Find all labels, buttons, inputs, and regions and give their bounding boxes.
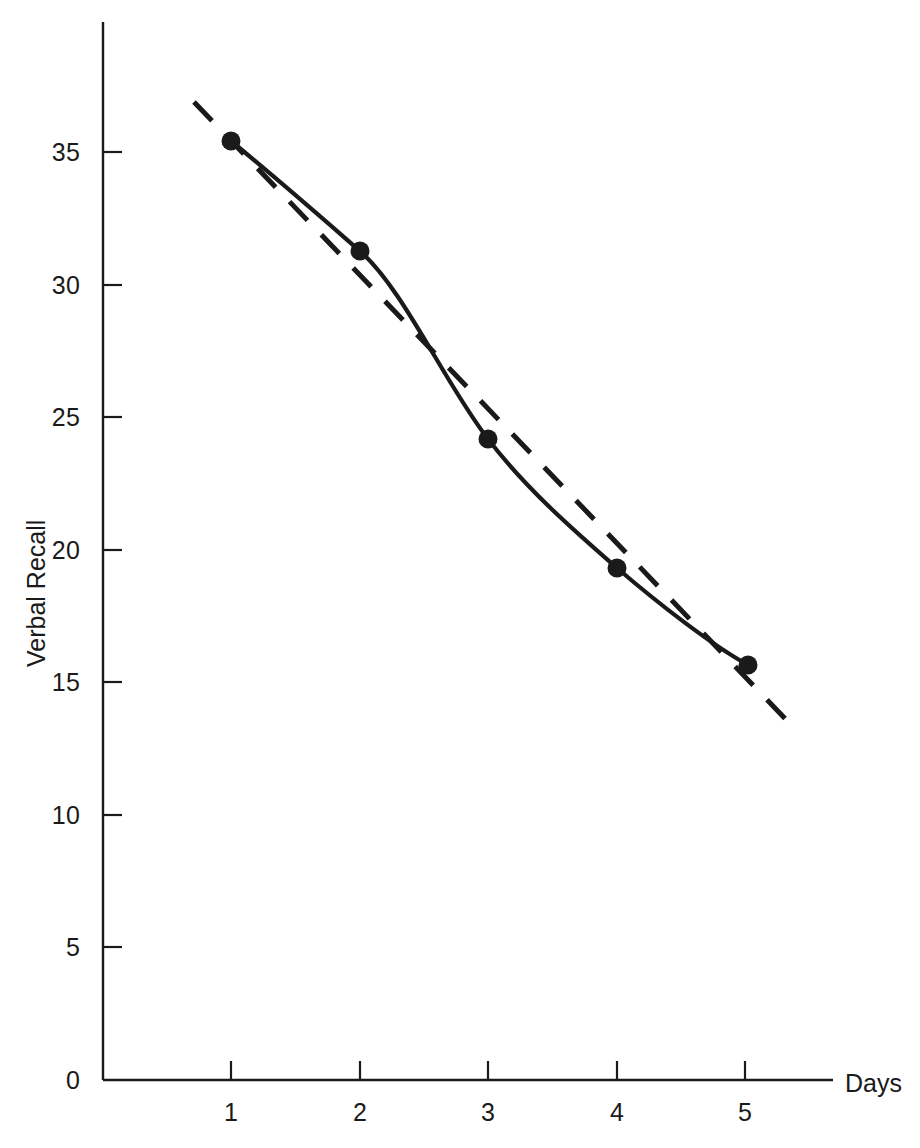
x-tick-label-2: 2 [353, 1098, 367, 1127]
x-tick-label-4: 4 [610, 1098, 624, 1127]
plot-area [0, 0, 920, 1148]
x-axis-title: Days [845, 1069, 902, 1098]
data-series-line [231, 141, 748, 665]
x-tick-label-1: 1 [224, 1098, 238, 1127]
y-tick-label-35: 35 [36, 138, 80, 167]
y-tick-label-10: 10 [36, 801, 80, 830]
y-tick-label-15: 15 [36, 668, 80, 697]
y-tick-label-0: 0 [36, 1066, 80, 1095]
chart-figure: 35 30 25 20 15 10 5 0 1 2 3 4 5 Days Ver… [0, 0, 920, 1148]
y-tick-label-30: 30 [36, 271, 80, 300]
x-tick-label-3: 3 [481, 1098, 495, 1127]
x-axis-ticks [231, 1061, 745, 1080]
y-axis-ticks [103, 152, 122, 947]
data-point-day-2 [351, 242, 370, 261]
data-point-day-4 [608, 559, 627, 578]
data-point-day-5 [739, 656, 758, 675]
y-tick-label-5: 5 [36, 933, 80, 962]
y-tick-label-25: 25 [36, 403, 80, 432]
x-tick-label-5: 5 [738, 1098, 752, 1127]
data-point-day-3 [479, 430, 498, 449]
y-axis-title: Verbal Recall [22, 520, 51, 667]
data-point-day-1 [222, 132, 241, 151]
